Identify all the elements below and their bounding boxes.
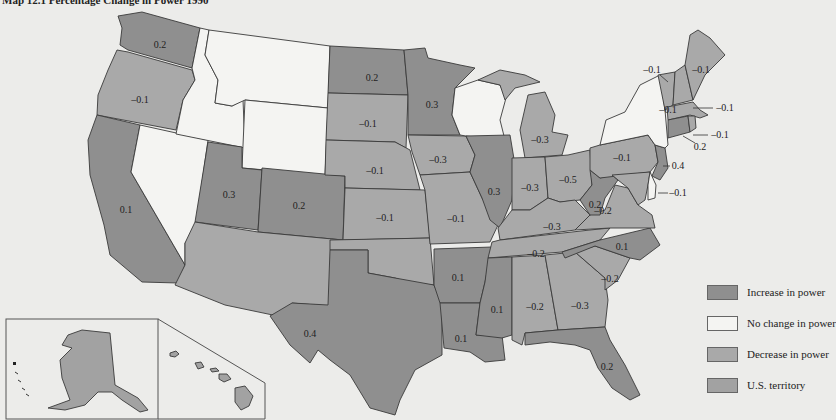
label-nd: 0.2 [366, 72, 379, 83]
label-wa: 0.2 [154, 39, 167, 50]
label-ne: –0.1 [365, 165, 384, 176]
label-oh: –0.5 [558, 174, 577, 185]
legend-label: Decrease in power [747, 348, 829, 360]
label-ma: –0.1 [658, 104, 677, 115]
label-ct: 0.2 [694, 141, 707, 152]
state-fl[interactable] [525, 327, 640, 400]
legend-swatch-increase [707, 285, 738, 300]
state-mt[interactable] [205, 30, 330, 108]
legend-item-decrease: Decrease in power [707, 344, 836, 364]
label-or: –0.1 [130, 94, 149, 105]
state-mi[interactable] [520, 92, 568, 158]
label-ia: –0.3 [428, 154, 447, 165]
label-al: –0.2 [525, 301, 544, 312]
label-mi: –0.3 [530, 134, 549, 145]
legend-label: No change in power [747, 317, 836, 329]
label-co: 0.2 [293, 200, 306, 211]
label-tx: 0.4 [304, 328, 317, 339]
label-ar: 0.1 [452, 272, 465, 283]
label-sc: –0.2 [600, 273, 619, 284]
label-nh: –0.1 [715, 102, 734, 113]
label-me: –0.1 [691, 64, 710, 75]
label-tn: –0.2 [526, 248, 545, 259]
legend-swatch-decrease [707, 347, 738, 362]
aleutian-island-icon [13, 362, 16, 365]
label-il: 0.3 [488, 186, 501, 197]
legend: Increase in power No change in power Dec… [707, 282, 836, 406]
aleutian-islands [15, 372, 29, 396]
state-hi[interactable] [170, 351, 253, 410]
label-vt: –0.1 [642, 64, 661, 75]
state-ny[interactable] [600, 75, 668, 148]
legend-item-increase: Increase in power [707, 282, 836, 302]
label-nc: 0.1 [616, 241, 629, 252]
label-ms: 0.1 [491, 304, 504, 315]
legend-swatch-no-change [707, 316, 738, 331]
label-nj: 0.4 [672, 160, 685, 171]
state-wy[interactable] [242, 100, 328, 175]
label-md: –0.1 [668, 187, 687, 198]
label-ut: 0.3 [223, 189, 236, 200]
legend-label: U.S. territory [747, 379, 805, 391]
state-ct[interactable] [668, 116, 690, 138]
label-wv: 0.2 [589, 199, 602, 210]
legend-item-territory: U.S. territory [707, 375, 836, 395]
label-ga: –0.3 [570, 300, 589, 311]
label-mo: –0.1 [446, 213, 465, 224]
label-mn: 0.3 [426, 99, 439, 110]
label-fl: 0.2 [601, 361, 614, 372]
label-la: 0.1 [455, 333, 468, 344]
legend-item-no-change: No change in power [707, 313, 836, 333]
state-ak[interactable] [48, 330, 148, 412]
label-ky: –0.3 [542, 221, 561, 232]
label-ri: –0.1 [710, 129, 729, 140]
label-ks: –0.1 [375, 212, 394, 223]
state-wi[interactable] [452, 80, 506, 140]
label-sd: –0.1 [358, 118, 377, 129]
legend-label: Increase in power [747, 286, 825, 298]
label-pa: –0.1 [612, 152, 631, 163]
label-in: –0.3 [520, 182, 539, 193]
legend-swatch-territory [707, 378, 738, 393]
label-ca: 0.1 [120, 204, 133, 215]
state-nd[interactable] [328, 46, 408, 95]
